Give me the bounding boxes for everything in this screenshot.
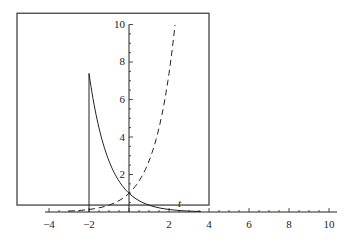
data-series <box>69 25 201 212</box>
y-tick-label: 2 <box>120 168 126 180</box>
x-tick-label: 6 <box>246 218 252 230</box>
y-tick-label: 4 <box>120 131 126 143</box>
x-tick-label: 2 <box>166 218 172 230</box>
solid-curve-exp-neg-t <box>89 73 201 211</box>
x-tick-label: −2 <box>83 218 95 230</box>
frame-box <box>17 13 209 205</box>
axis-ticks <box>49 25 329 213</box>
x-tick-label: 10 <box>324 218 336 230</box>
x-axis-variable-label: t <box>178 197 182 209</box>
tick-labels: −4 −2 2 4 6 8 10 2 4 6 8 10 t <box>43 18 335 230</box>
y-tick-label: 10 <box>114 18 126 30</box>
y-tick-label: 6 <box>120 93 126 105</box>
y-tick-label: 8 <box>120 55 126 67</box>
dashed-curve-exp-t <box>69 25 175 211</box>
x-tick-label: 8 <box>286 218 292 230</box>
plot-frame <box>17 13 209 205</box>
chart: −4 −2 2 4 6 8 10 2 4 6 8 10 t <box>0 0 357 242</box>
x-tick-label: −4 <box>43 218 55 230</box>
x-tick-label: 4 <box>206 218 212 230</box>
